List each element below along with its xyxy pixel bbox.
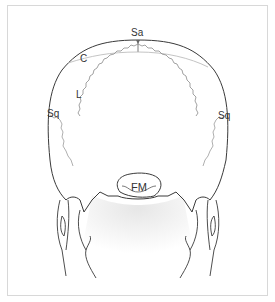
lambdoid-suture (78, 44, 198, 116)
occipital-shading (80, 195, 195, 260)
squamous-suture-left (50, 115, 73, 166)
coronal-suture (68, 52, 208, 67)
label-foramen-magnum: FM (131, 181, 147, 193)
mastoid-process-left (57, 200, 69, 276)
label-sagittal: Sa (131, 27, 144, 38)
skull-outline-left-lower (50, 160, 66, 200)
skull-diagram: Sa C L Sq Sq FM (0, 0, 275, 302)
squamous-suture-right (203, 115, 226, 166)
label-squamous-right: Sq (218, 110, 230, 121)
label-squamous-left: Sq (47, 108, 59, 119)
label-lambdoid: L (76, 89, 82, 100)
mastoid-process-right (207, 200, 219, 276)
sagittal-marker-icon (136, 40, 140, 44)
label-coronal: C (80, 53, 87, 64)
